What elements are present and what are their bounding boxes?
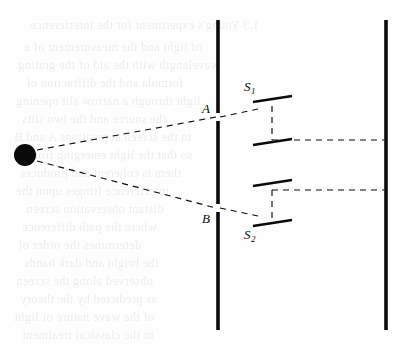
secondary-source-2-label: S2 (244, 228, 255, 244)
dashed-rays-group (37, 106, 384, 221)
slit-a-label: A (202, 102, 210, 115)
mirror-s1-upper (253, 96, 292, 102)
ray-diagram-canvas (0, 0, 407, 349)
ray-a-to-s1 (220, 109, 258, 117)
ray-b-to-s2 (220, 208, 258, 216)
optics-figure: 1.3 Young's experiment for the interfere… (0, 0, 407, 349)
slit-b-label: B (202, 212, 210, 225)
mirror-s2-lower (253, 220, 292, 226)
ray-source-to-b (37, 161, 216, 208)
barrier-group (218, 20, 386, 330)
secondary-source-1-label: S1 (244, 80, 255, 96)
source-label: S (22, 142, 29, 155)
ray-source-to-a (37, 117, 216, 150)
mirror-s2-upper (253, 180, 292, 186)
